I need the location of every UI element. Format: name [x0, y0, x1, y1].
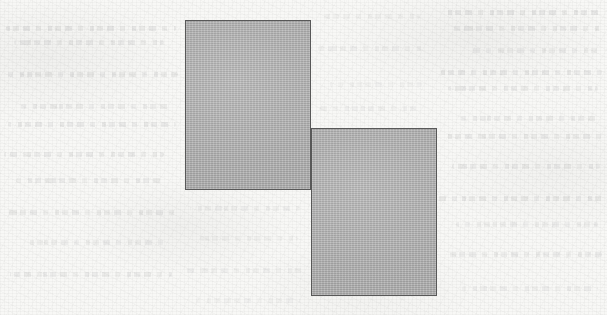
show-through-text-line: [452, 164, 600, 169]
show-through-text-line: [320, 106, 420, 111]
show-through-text-line: [462, 286, 598, 291]
show-through-text-line: [6, 26, 176, 31]
rectangle-lower-right: [311, 128, 437, 296]
show-through-text-line: [4, 152, 164, 157]
show-through-text-line: [2, 72, 178, 77]
show-through-text-line: [200, 236, 298, 241]
show-through-text-line: [16, 178, 166, 183]
show-through-text-line: [456, 222, 598, 227]
show-through-text-line: [330, 82, 422, 87]
show-through-text-line: [190, 206, 300, 211]
show-through-text-line: [8, 122, 176, 127]
show-through-text-line: [460, 116, 600, 121]
show-through-text-line: [444, 10, 600, 15]
show-through-text-line: [470, 48, 598, 53]
show-through-text-line: [14, 40, 164, 45]
show-through-text-line: [324, 14, 420, 19]
show-through-text-line: [196, 298, 300, 303]
show-through-text-line: [448, 86, 598, 91]
show-through-text-line: [24, 240, 164, 245]
show-through-text-line: [6, 210, 178, 215]
show-through-text-line: [438, 196, 604, 201]
show-through-text-line: [186, 268, 304, 273]
show-through-text-line: [440, 70, 602, 75]
rectangle-upper-left: [185, 20, 311, 190]
show-through-text-line: [452, 26, 600, 31]
figure-canvas: [0, 0, 607, 315]
show-through-text-line: [444, 252, 602, 257]
show-through-text-line: [442, 134, 602, 139]
show-through-text-line: [318, 46, 424, 51]
show-through-text-line: [20, 104, 172, 109]
show-through-text-line: [10, 272, 172, 277]
